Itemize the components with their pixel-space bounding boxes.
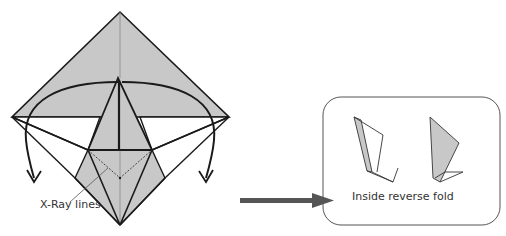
inset-caption: Inside reverse fold: [352, 190, 454, 203]
inset-fold-step-1: [354, 117, 398, 182]
transition-arrow: [240, 193, 334, 208]
inset-fold-step-2: [430, 117, 463, 182]
inset-box: [323, 97, 500, 225]
xray-lines-label: X-Ray lines: [40, 198, 101, 211]
right-white-flap: [140, 117, 229, 150]
folded-model: [12, 12, 229, 225]
